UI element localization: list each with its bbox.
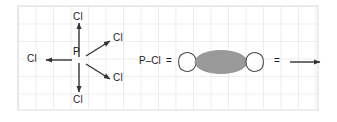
ligand-label-lower-right: Cl [113,73,123,83]
orbital-center-ellipse [195,51,247,74]
bond-arrow-lower-right [86,64,110,79]
ligand-label-down: Cl [73,95,83,105]
ligand-label-left: Cl [27,54,37,64]
pcl5-orbital-figure: P Cl Cl Cl Cl Cl P–Cl = = [0,0,337,122]
equals-sign-right: = [274,56,280,66]
central-atom-label: P [73,47,80,57]
orbital-lobe-left [179,53,196,72]
ligand-label-up: Cl [73,12,83,22]
bond-arrow-upper-right [86,41,110,56]
ligand-label-upper-right: Cl [113,33,123,43]
equals-sign-left: = [166,56,172,66]
bond-pair-label: P–Cl [139,56,161,66]
orbital-lobe-right [246,53,263,72]
